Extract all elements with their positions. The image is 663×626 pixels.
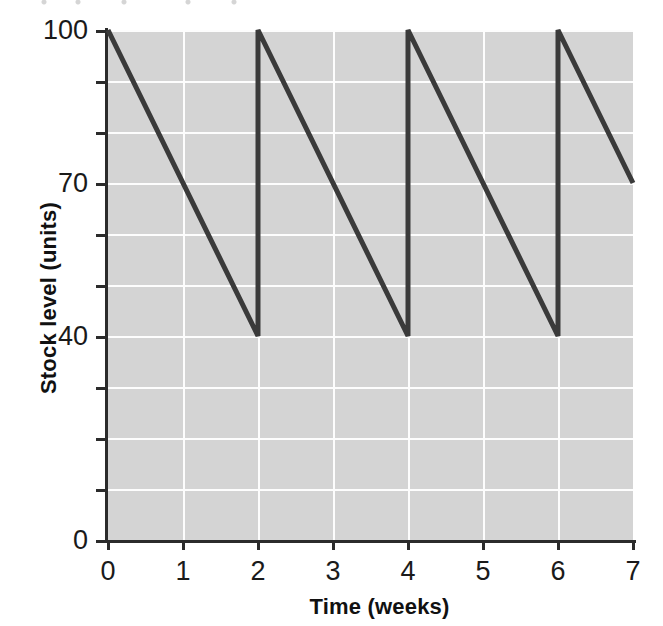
gridline-horizontal (108, 336, 633, 338)
y-axis-tick (96, 438, 106, 441)
y-axis-tick (96, 132, 106, 135)
x-tick-label-0: 0 (88, 556, 128, 586)
gridline-vertical (483, 30, 485, 540)
y-tick-label-100: 100 (28, 17, 88, 44)
gridline-vertical (258, 30, 260, 540)
scan-artifact (38, 0, 288, 5)
y-axis-title: Stock level (units) (36, 43, 62, 553)
x-axis-tick (107, 540, 110, 550)
gridline-horizontal (108, 132, 633, 134)
plot-area (108, 30, 633, 540)
y-axis-tick (96, 183, 106, 186)
gridline-horizontal (108, 183, 633, 185)
gridline-horizontal (108, 489, 633, 491)
x-axis-title: Time (weeks) (0, 594, 663, 620)
y-axis-tick (96, 387, 106, 390)
gridline-horizontal (108, 438, 633, 440)
x-tick-label-1: 1 (163, 556, 203, 586)
x-axis-tick (557, 540, 560, 550)
x-tick-label-5: 5 (463, 556, 503, 586)
x-tick-label-2: 2 (238, 556, 278, 586)
x-axis-tick (632, 540, 635, 550)
gridline-horizontal (108, 234, 633, 236)
y-axis-tick (96, 489, 106, 492)
x-axis-tick (332, 540, 335, 550)
gridline-horizontal (108, 387, 633, 389)
gridline-vertical (183, 30, 185, 540)
y-axis-tick (96, 81, 106, 84)
gridline-horizontal (108, 30, 633, 32)
x-axis-tick (182, 540, 185, 550)
x-tick-label-3: 3 (313, 556, 353, 586)
x-axis-tick (407, 540, 410, 550)
gridline-vertical (333, 30, 335, 540)
x-tick-label-6: 6 (538, 556, 578, 586)
gridline-horizontal (108, 81, 633, 83)
x-axis-tick (482, 540, 485, 550)
x-tick-label-4: 4 (388, 556, 428, 586)
y-axis-tick (96, 285, 106, 288)
chart-figure: 100 70 40 0 0 1 2 3 4 5 6 7 Time (weeks)… (0, 0, 663, 626)
y-axis-tick (96, 336, 106, 339)
y-tick-label-100-wrap: 100 (28, 17, 88, 44)
x-axis-tick (257, 540, 260, 550)
gridline-vertical (408, 30, 410, 540)
x-tick-label-7: 7 (613, 556, 653, 586)
y-axis-tick (96, 234, 106, 237)
gridline-vertical (558, 30, 560, 540)
gridline-horizontal (108, 285, 633, 287)
y-axis-tick (96, 540, 106, 543)
y-axis-tick (96, 30, 106, 33)
